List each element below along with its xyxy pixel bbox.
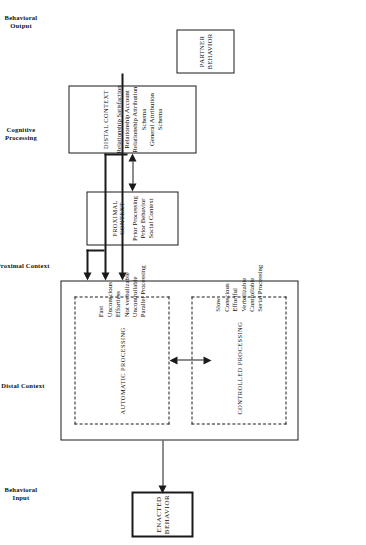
connector-proximal-to-cognitive-stub	[86, 250, 104, 252]
list-item: Parallel Processing	[138, 265, 146, 317]
node-automatic-processing[interactable]: AUTOMATIC PROCESSING Fast Unconscious Ef…	[74, 296, 169, 424]
connector-proximal-to-cognitive-run	[86, 250, 88, 274]
connector-distal-proximal-arrowhead-left	[128, 183, 136, 191]
node-proximal-context[interactable]: PROXIMAL CONTEXT Prior Processing Prior …	[86, 191, 178, 245]
list-item: Slow	[213, 264, 221, 311]
connector-distal-to-cognitive-stub	[104, 154, 127, 156]
connector-distal-to-cognitive-run	[104, 154, 106, 274]
list-item: Schema	[139, 85, 147, 153]
node-partner-behavior-title: PARTNER BEHAVIOR	[197, 33, 212, 69]
list-item: Relationship Attribution	[130, 85, 138, 153]
list-item: Social Context	[146, 196, 154, 241]
list-item: Serial Processing	[255, 264, 263, 311]
list-item: Conscious	[222, 264, 230, 311]
connector-partner-to-cognitive-run	[121, 73, 123, 273]
diagram-stage: ENACTED BEHAVIOR AUTOMATIC PROCESSING Fa…	[0, 0, 366, 545]
connector-cognitive-to-enacted-line	[162, 439, 164, 487]
node-distal-context[interactable]: DISTAL CONTEXT Relationship Satisfaction…	[68, 85, 196, 153]
connector-cognitive-to-enacted-arrowhead	[158, 485, 166, 493]
list-item: Effortful	[230, 264, 238, 311]
proximal-context-item-list: Prior Processing Prior Behavior Social C…	[130, 196, 155, 241]
node-enacted-behavior-title: ENACTED BEHAVIOR	[154, 494, 170, 533]
node-partner-behavior[interactable]: PARTNER BEHAVIOR	[176, 29, 234, 73]
list-item: Prior Processing	[130, 196, 138, 241]
connector-distal-proximal-line	[132, 161, 134, 183]
node-enacted-behavior[interactable]: ENACTED BEHAVIOR	[131, 491, 193, 537]
connector-distal-to-cognitive-arrowhead	[101, 272, 109, 280]
node-cognitive-processing-container[interactable]: AUTOMATIC PROCESSING Fast Unconscious Ef…	[60, 280, 298, 440]
connector-automatic-controlled-arrowhead-down	[203, 356, 211, 364]
list-item: Relationship Account	[122, 85, 130, 153]
node-distal-context-title: DISTAL CONTEXT	[101, 90, 108, 149]
connector-proximal-to-cognitive-arrowhead	[83, 272, 91, 280]
connector-distal-proximal-arrowhead-right	[128, 153, 136, 161]
list-item: General Attribution	[147, 85, 155, 153]
node-controlled-processing-title: CONTROLLED PROCESSING	[235, 321, 242, 414]
list-item: Prior Behavior	[138, 196, 146, 241]
connector-automatic-controlled-line	[177, 359, 203, 361]
list-item: Verbalizable	[239, 264, 247, 311]
node-automatic-processing-title: AUTOMATIC PROCESSING	[118, 327, 125, 414]
connector-partner-to-cognitive-arrowhead	[118, 272, 126, 280]
list-item: Uncontrollable	[130, 265, 138, 317]
controlled-processing-attribute-list: Slow Conscious Effortful Verbalizable Co…	[213, 264, 264, 311]
list-item: Controllable	[247, 264, 255, 311]
connector-automatic-controlled-arrowhead-up	[169, 356, 177, 364]
list-item: Schema	[155, 85, 163, 153]
figure-canvas: Behavioral Output Cognitive Processing P…	[0, 0, 366, 545]
